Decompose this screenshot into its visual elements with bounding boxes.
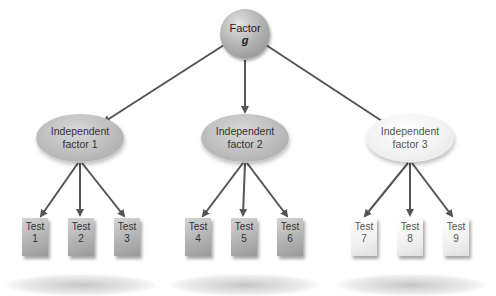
test-number: 5 (241, 233, 247, 245)
factor-3-label-line1: Independent (381, 125, 439, 138)
factor-g-node: Factor g (220, 9, 270, 59)
test-label: Test (72, 221, 90, 233)
floor-shadow-1 (6, 274, 156, 296)
floor-shadow-2 (170, 274, 320, 296)
test-6-node: Test 6 (277, 218, 303, 256)
factor-g-symbol: g (242, 34, 249, 46)
test-label: Test (26, 221, 44, 233)
factor-g-label: Factor (229, 22, 260, 34)
test-number: 9 (453, 233, 459, 245)
test-3-node: Test 3 (114, 218, 140, 256)
test-number: 2 (78, 233, 84, 245)
test-label: Test (281, 221, 299, 233)
test-9-node: Test 9 (443, 218, 469, 256)
factor-2-label-line2: factor 2 (227, 138, 262, 151)
test-7-node: Test 7 (351, 218, 377, 256)
test-label: Test (189, 221, 207, 233)
test-label: Test (447, 221, 465, 233)
test-4-node: Test 4 (185, 218, 211, 256)
test-number: 7 (361, 233, 367, 245)
floor-shadow-3 (336, 274, 486, 296)
factor-1-label-line1: Independent (51, 125, 109, 138)
factor-1-label-line2: factor 1 (62, 138, 97, 151)
test-label: Test (401, 221, 419, 233)
test-2-node: Test 2 (68, 218, 94, 256)
test-5-node: Test 5 (231, 218, 257, 256)
test-label: Test (235, 221, 253, 233)
test-8-node: Test 8 (397, 218, 423, 256)
factor-2-label-line1: Independent (216, 125, 274, 138)
independent-factor-1-node: Independent factor 1 (36, 114, 124, 162)
test-label: Test (118, 221, 136, 233)
test-label: Test (355, 221, 373, 233)
test-number: 4 (195, 233, 201, 245)
independent-factor-2-node: Independent factor 2 (201, 114, 289, 162)
test-number: 8 (407, 233, 413, 245)
test-1-node: Test 1 (22, 218, 48, 256)
test-number: 1 (32, 233, 38, 245)
test-number: 3 (124, 233, 130, 245)
factor-3-label-line2: factor 3 (392, 138, 427, 151)
test-number: 6 (287, 233, 293, 245)
independent-factor-3-node: Independent factor 3 (366, 114, 454, 162)
